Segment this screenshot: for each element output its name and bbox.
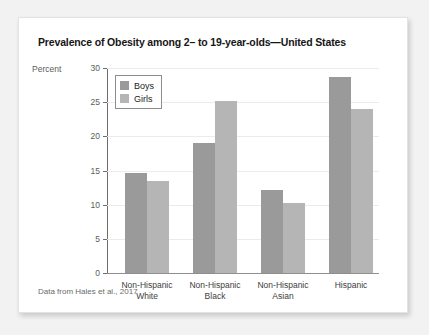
legend-swatch-icon	[120, 81, 129, 90]
bar-girls	[215, 101, 237, 273]
bar-group: Non-HispanicAsian	[261, 68, 305, 273]
y-axis-tick	[103, 205, 107, 206]
source-note: Data from Hales et al., 2017	[38, 287, 138, 296]
bar-girls	[351, 109, 373, 273]
bar-girls	[147, 181, 169, 273]
y-axis-tick-label: 25	[91, 97, 100, 107]
x-axis-category-label: Non-HispanicBlack	[189, 280, 240, 302]
bar-boys	[193, 143, 215, 273]
x-axis-category-label: Hispanic	[335, 280, 368, 291]
y-axis-tick-label: 15	[91, 166, 100, 176]
y-axis-tick	[103, 239, 107, 240]
bar-group: Non-HispanicBlack	[193, 68, 237, 273]
y-axis-tick	[103, 136, 107, 137]
y-axis-tick	[103, 171, 107, 172]
y-axis-tick	[103, 273, 107, 274]
legend-label: Boys	[134, 81, 154, 91]
y-axis-tick-label: 5	[95, 234, 100, 244]
bar-boys	[125, 173, 147, 273]
legend: BoysGirls	[115, 75, 162, 109]
legend-swatch-icon	[120, 94, 129, 103]
figure-card: Prevalence of Obesity among 2– to 19-yea…	[18, 17, 408, 313]
bar-girls	[283, 203, 305, 273]
bar-boys	[261, 190, 283, 273]
gridline	[107, 273, 379, 274]
legend-item: Boys	[120, 79, 154, 92]
y-axis-tick	[103, 102, 107, 103]
legend-item: Girls	[120, 92, 154, 105]
page-title: Prevalence of Obesity among 2– to 19-yea…	[38, 36, 346, 48]
legend-label: Girls	[134, 94, 153, 104]
bar-boys	[329, 77, 351, 273]
y-axis-tick-label: 30	[91, 63, 100, 73]
y-axis-tick-label: 0	[95, 268, 100, 278]
x-axis-category-label: Non-HispanicAsian	[257, 280, 308, 302]
y-axis-tick-label: 20	[91, 131, 100, 141]
y-axis-tick-label: 10	[91, 200, 100, 210]
y-axis-title: Percent	[32, 64, 61, 74]
y-axis-tick	[103, 68, 107, 69]
bar-group: Hispanic	[329, 68, 373, 273]
